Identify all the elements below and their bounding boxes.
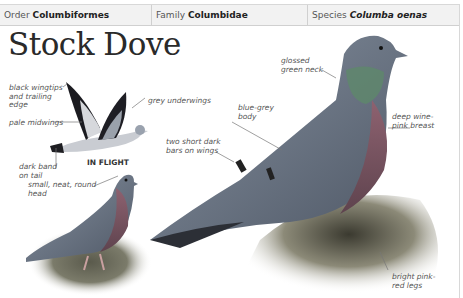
label-dark-band-tail: dark band on tail bbox=[19, 163, 57, 180]
label-blue-grey-body: blue-grey body bbox=[238, 104, 274, 121]
page: Order Columbiformes Family Columbidae Sp… bbox=[0, 0, 463, 298]
label-grey-underwings: grey underwings bbox=[148, 97, 211, 106]
label-black-wingtips: black wingtips and trailing edge bbox=[9, 84, 63, 110]
illustration bbox=[0, 0, 463, 298]
label-pale-midwings: pale midwings bbox=[9, 119, 63, 128]
label-pink-legs: bright pink- red legs bbox=[392, 273, 435, 290]
in-flight-caption: IN FLIGHT bbox=[87, 158, 129, 167]
label-small-head: small, neat, round head bbox=[28, 181, 96, 198]
label-two-bars: two short dark bars on wings bbox=[166, 138, 221, 155]
label-wine-breast: deep wine- pink breast bbox=[392, 113, 434, 130]
label-glossed-neck: glossed green neck bbox=[281, 57, 323, 74]
flying-bird-illustration bbox=[50, 82, 148, 153]
